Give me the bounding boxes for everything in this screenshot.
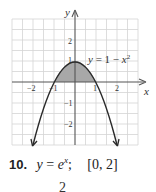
x-axis-label: x xyxy=(143,85,149,97)
tick-x-2: 2 xyxy=(115,84,119,93)
tick-y-neg1: −1 xyxy=(64,99,73,108)
problem-equation: y = ex; xyxy=(37,157,72,172)
tick-x-neg2: −2 xyxy=(27,84,36,93)
tick-y-neg2: −2 xyxy=(64,120,73,129)
tick-y-2: 2 xyxy=(68,37,72,46)
tick-x-1: 1 xyxy=(93,84,97,93)
problem-number: 10. xyxy=(9,157,27,172)
cutoff-text: 2 xyxy=(59,180,66,192)
y-axis-label: y xyxy=(64,6,70,18)
eq-suffix: ; xyxy=(68,157,72,172)
eq-equals: = xyxy=(43,157,58,172)
problem-interval: [0, 2] xyxy=(87,157,117,172)
tick-y-1: 1 xyxy=(68,56,72,65)
curve-label: y = 1 − x2 xyxy=(87,53,131,65)
problem-statement: 10. y = ex; [0, 2] xyxy=(9,155,118,173)
tick-x-neg1: −1 xyxy=(49,84,58,93)
parabola-graph: y x y = 1 − x2 −2 −1 1 2 2 1 −1 −2 xyxy=(0,0,156,152)
